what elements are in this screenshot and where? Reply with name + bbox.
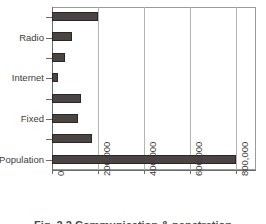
category-tick: [46, 17, 52, 18]
bar: [52, 73, 58, 82]
value-label: 400,000: [148, 142, 158, 176]
value-tick: [144, 170, 145, 174]
bar: [52, 32, 72, 41]
category-label-radio: Radio: [19, 33, 44, 43]
category-tick: [46, 78, 52, 79]
category-tick: [46, 58, 52, 59]
value-label: 0: [56, 171, 66, 176]
bar: [52, 155, 236, 164]
bar: [52, 134, 92, 143]
gridline: [144, 7, 145, 170]
bar: [52, 94, 81, 103]
gridline: [190, 7, 191, 170]
category-tick: [46, 38, 52, 39]
gridline: [236, 7, 237, 170]
value-label: 800,000: [240, 142, 250, 176]
category-tick: [46, 119, 52, 120]
category-tick: [46, 160, 52, 161]
value-tick: [236, 170, 237, 174]
value-tick: [98, 170, 99, 174]
bar: [52, 114, 78, 123]
value-tick: [190, 170, 191, 174]
value-label: 600,000: [194, 142, 204, 176]
gridline: [98, 7, 99, 170]
value-label: 200,000: [102, 142, 112, 176]
bar: [52, 12, 98, 21]
category-label-population: Population: [0, 155, 44, 165]
category-label-fixed: Fixed: [21, 114, 44, 124]
value-tick: [52, 170, 53, 174]
figure-caption: Fig. 2.2 Communication & penetration: [0, 219, 266, 224]
category-tick: [46, 99, 52, 100]
category-label-internet: Internet: [12, 73, 44, 83]
category-tick: [46, 139, 52, 140]
bar-chart-figure: RadioInternetFixedPopulation 0200,000400…: [0, 0, 266, 224]
bar: [52, 53, 65, 62]
